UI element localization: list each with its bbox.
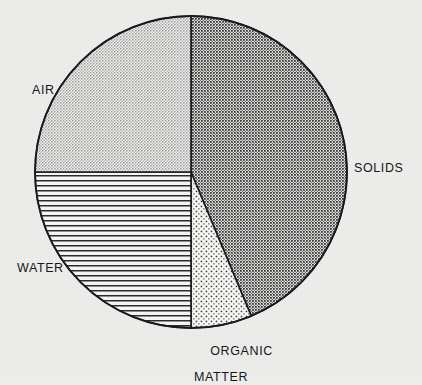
pie-slice-air [35,16,191,172]
pie-label-water: WATER [17,262,64,275]
pie-label-organic-matter-line1: ORGANIC [210,344,273,358]
pie-label-organic-matter-line2: MATTER [194,371,273,384]
pie-label-organic-matter: ORGANIC MATTER [194,332,273,385]
pie-label-solids: SOLIDS [354,162,403,175]
pie-slice-water [35,172,191,328]
pie-label-air: AIR [32,84,55,97]
